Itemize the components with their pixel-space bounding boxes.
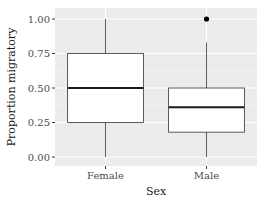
y-tick-label: 0.25 bbox=[28, 117, 50, 128]
y-tick-label: 0.00 bbox=[28, 152, 50, 163]
y-axis-title: Proportion migratory bbox=[5, 27, 18, 146]
boxplot-chart: 0.000.250.500.751.00 FemaleMale Proporti… bbox=[0, 0, 270, 204]
x-tick-label: Male bbox=[194, 170, 219, 181]
y-tick-label: 0.50 bbox=[28, 83, 50, 94]
x-axis-title: Sex bbox=[146, 185, 167, 198]
y-tick-label: 0.75 bbox=[28, 48, 50, 59]
box-iqr bbox=[169, 88, 245, 132]
y-tick-label: 1.00 bbox=[28, 14, 50, 25]
y-axis: 0.000.250.500.751.00 bbox=[28, 14, 55, 163]
x-tick-label: Female bbox=[87, 170, 124, 181]
x-axis: FemaleMale bbox=[87, 166, 219, 181]
outlier-point bbox=[204, 16, 209, 21]
